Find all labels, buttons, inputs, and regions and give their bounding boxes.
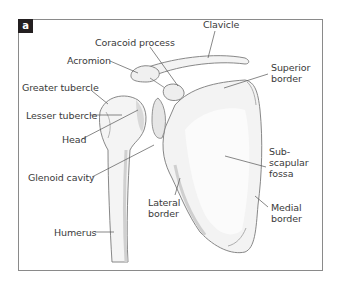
label-subscapular-fossa: Sub- scapular fossa bbox=[269, 146, 309, 179]
label-coracoid-process: Coracoid process bbox=[95, 37, 175, 48]
label-glenoid-cavity: Glenoid cavity bbox=[28, 172, 95, 183]
label-lesser-tubercle: Lesser tubercle bbox=[26, 110, 97, 121]
acromion bbox=[131, 66, 159, 82]
label-lateral-border: Lateral border bbox=[148, 197, 180, 219]
label-head: Head bbox=[62, 134, 86, 145]
label-acromion: Acromion bbox=[67, 55, 111, 66]
label-superior-border: Superior border bbox=[271, 62, 310, 84]
panel-label: a bbox=[18, 19, 33, 33]
label-humerus: Humerus bbox=[54, 227, 96, 238]
label-medial-border: Medial border bbox=[271, 202, 302, 224]
coracoid-process bbox=[163, 84, 184, 101]
label-clavicle: Clavicle bbox=[203, 19, 239, 30]
label-greater-tubercle: Greater tubercle bbox=[22, 82, 99, 93]
